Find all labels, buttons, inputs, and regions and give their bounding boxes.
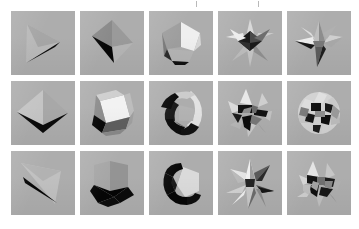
polyhedron-panel-10[interactable]: stellated-sphere-cluster <box>287 81 351 145</box>
polyhedron-panel-5[interactable]: great-stellated-polyhedron <box>287 11 351 75</box>
polyhedron-panel-1[interactable]: tetrahedron-flat <box>11 11 75 75</box>
polyhedron-panel-8[interactable]: crescent-toroid <box>149 81 213 145</box>
degenerate-triangle-icon <box>11 151 75 215</box>
cube-corner-icon <box>80 151 144 215</box>
polyhedron-panel-9[interactable]: compound-stellation-spiky <box>218 81 282 145</box>
stellated-sphere-cluster-icon <box>287 81 351 145</box>
polyhedron-grid: tetrahedron-flat tetrahedron-dark-face <box>11 11 351 223</box>
compound-stellation-spiky-icon <box>218 81 282 145</box>
tetrahedron-dark-face-icon <box>80 11 144 75</box>
polyhedron-panel-15[interactable]: multi-spike-stellation <box>287 151 351 215</box>
cuboctahedron-icon <box>80 81 144 145</box>
square-bipyramid-icon <box>11 81 75 145</box>
small-stellated-polyhedron-icon <box>218 11 282 75</box>
polyhedron-panel-12[interactable]: cube-corner <box>80 151 144 215</box>
polyhedron-panel-11[interactable]: degenerate-triangle <box>11 151 75 215</box>
tick-mark <box>196 1 197 7</box>
multi-spike-stellation-icon <box>287 151 351 215</box>
tick-mark-row <box>0 0 359 11</box>
polyhedron-panel-14[interactable]: eight-point-star-stellation <box>218 151 282 215</box>
polyhedron-panel-3[interactable]: icosahedron <box>149 11 213 75</box>
polyhedron-panel-7[interactable]: cuboctahedron <box>80 81 144 145</box>
hooked-crescent-icon <box>149 151 213 215</box>
polyhedron-panel-2[interactable]: tetrahedron-dark-face <box>80 11 144 75</box>
tetrahedron-flat-icon <box>11 11 75 75</box>
polyhedron-panel-13[interactable]: hooked-crescent <box>149 151 213 215</box>
polyhedron-panel-6[interactable]: square-bipyramid <box>11 81 75 145</box>
figure-root: tetrahedron-flat tetrahedron-dark-face <box>0 0 359 229</box>
eight-point-star-stellation-icon <box>218 151 282 215</box>
great-stellated-polyhedron-icon <box>287 11 351 75</box>
tick-mark <box>258 1 259 7</box>
polyhedron-panel-4[interactable]: small-stellated-polyhedron <box>218 11 282 75</box>
crescent-toroid-icon <box>149 81 213 145</box>
icosahedron-icon <box>149 11 213 75</box>
